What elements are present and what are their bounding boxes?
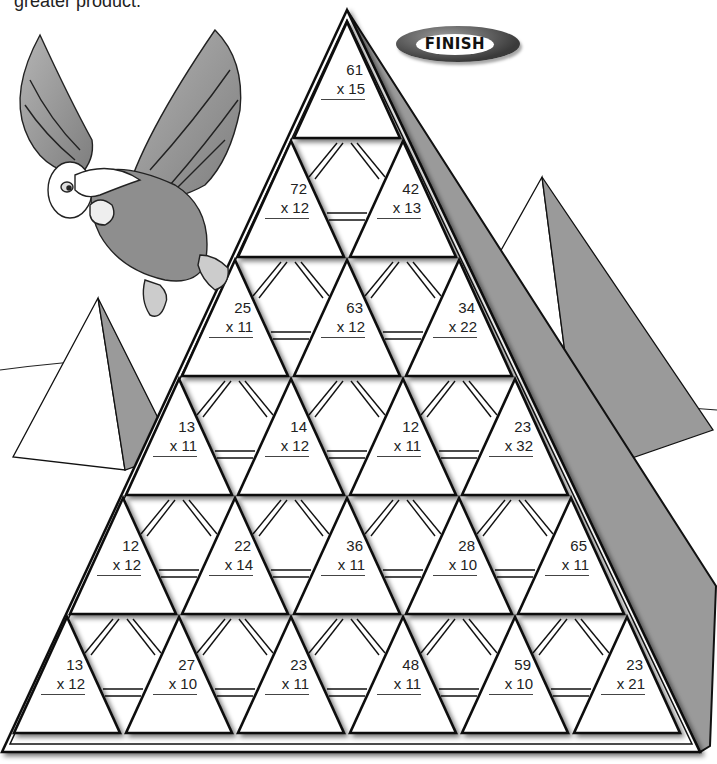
multiplicand: 23	[489, 417, 533, 436]
problem-label: 14x 12	[265, 417, 309, 457]
problem-label: 65x 11	[545, 536, 589, 576]
multiplicand: 42	[377, 179, 421, 198]
multiplicand: 14	[265, 417, 309, 436]
multiplier: x 11	[153, 436, 197, 457]
multiplicand: 72	[265, 179, 309, 198]
problem-label: 12x 12	[97, 536, 141, 576]
multiplier: x 21	[601, 674, 645, 695]
multiplier: x 11	[265, 674, 309, 695]
problem-label: 61x 15	[321, 60, 365, 100]
problem-label: 42x 13	[377, 179, 421, 219]
multiplicand: 36	[321, 536, 365, 555]
multiplier: x 11	[377, 674, 421, 695]
multiplicand: 63	[321, 298, 365, 317]
finish-badge: FINISH	[396, 26, 520, 62]
problem-label: 22x 14	[209, 536, 253, 576]
problem-label: 23x 11	[265, 655, 309, 695]
problem-label: 59x 10	[489, 655, 533, 695]
multiplicand: 12	[377, 417, 421, 436]
multiplicand: 34	[433, 298, 477, 317]
multiplicand: 65	[545, 536, 589, 555]
multiplicand: 48	[377, 655, 421, 674]
problem-label: 28x 10	[433, 536, 477, 576]
problem-label: 27x 10	[153, 655, 197, 695]
problem-label: 36x 11	[321, 536, 365, 576]
problem-label: 34x 22	[433, 298, 477, 338]
multiplicand: 13	[153, 417, 197, 436]
problem-label: 13x 12	[41, 655, 85, 695]
problem-label: 12x 11	[377, 417, 421, 457]
multiplier: x 11	[545, 555, 589, 576]
problem-label: 48x 11	[377, 655, 421, 695]
multiplier: x 10	[153, 674, 197, 695]
problem-label: 25x 11	[209, 298, 253, 338]
multiplier: x 10	[489, 674, 533, 695]
problem-label: 72x 12	[265, 179, 309, 219]
multiplicand: 59	[489, 655, 533, 674]
multiplicand: 22	[209, 536, 253, 555]
vulture-icon	[20, 30, 241, 316]
problem-label: 23x 21	[601, 655, 645, 695]
finish-label: FINISH	[416, 35, 494, 53]
multiplier: x 10	[433, 555, 477, 576]
multiplier: x 14	[209, 555, 253, 576]
multiplicand: 61	[321, 60, 365, 79]
multiplier: x 32	[489, 436, 533, 457]
problem-label: 13x 11	[153, 417, 197, 457]
multiplier: x 13	[377, 198, 421, 219]
problem-label: 23x 32	[489, 417, 533, 457]
multiplier: x 22	[433, 317, 477, 338]
multiplier: x 11	[209, 317, 253, 338]
multiplicand: 23	[265, 655, 309, 674]
multiplier: x 15	[321, 79, 365, 100]
multiplier: x 12	[41, 674, 85, 695]
multiplicand: 25	[209, 298, 253, 317]
multiplier: x 12	[265, 198, 309, 219]
multiplier: x 11	[321, 555, 365, 576]
multiplier: x 12	[97, 555, 141, 576]
multiplicand: 13	[41, 655, 85, 674]
multiplicand: 23	[601, 655, 645, 674]
multiplicand: 12	[97, 536, 141, 555]
multiplicand: 27	[153, 655, 197, 674]
problem-label: 63x 12	[321, 298, 365, 338]
multiplier: x 12	[265, 436, 309, 457]
multiplier: x 11	[377, 436, 421, 457]
multiplicand: 28	[433, 536, 477, 555]
multiplier: x 12	[321, 317, 365, 338]
